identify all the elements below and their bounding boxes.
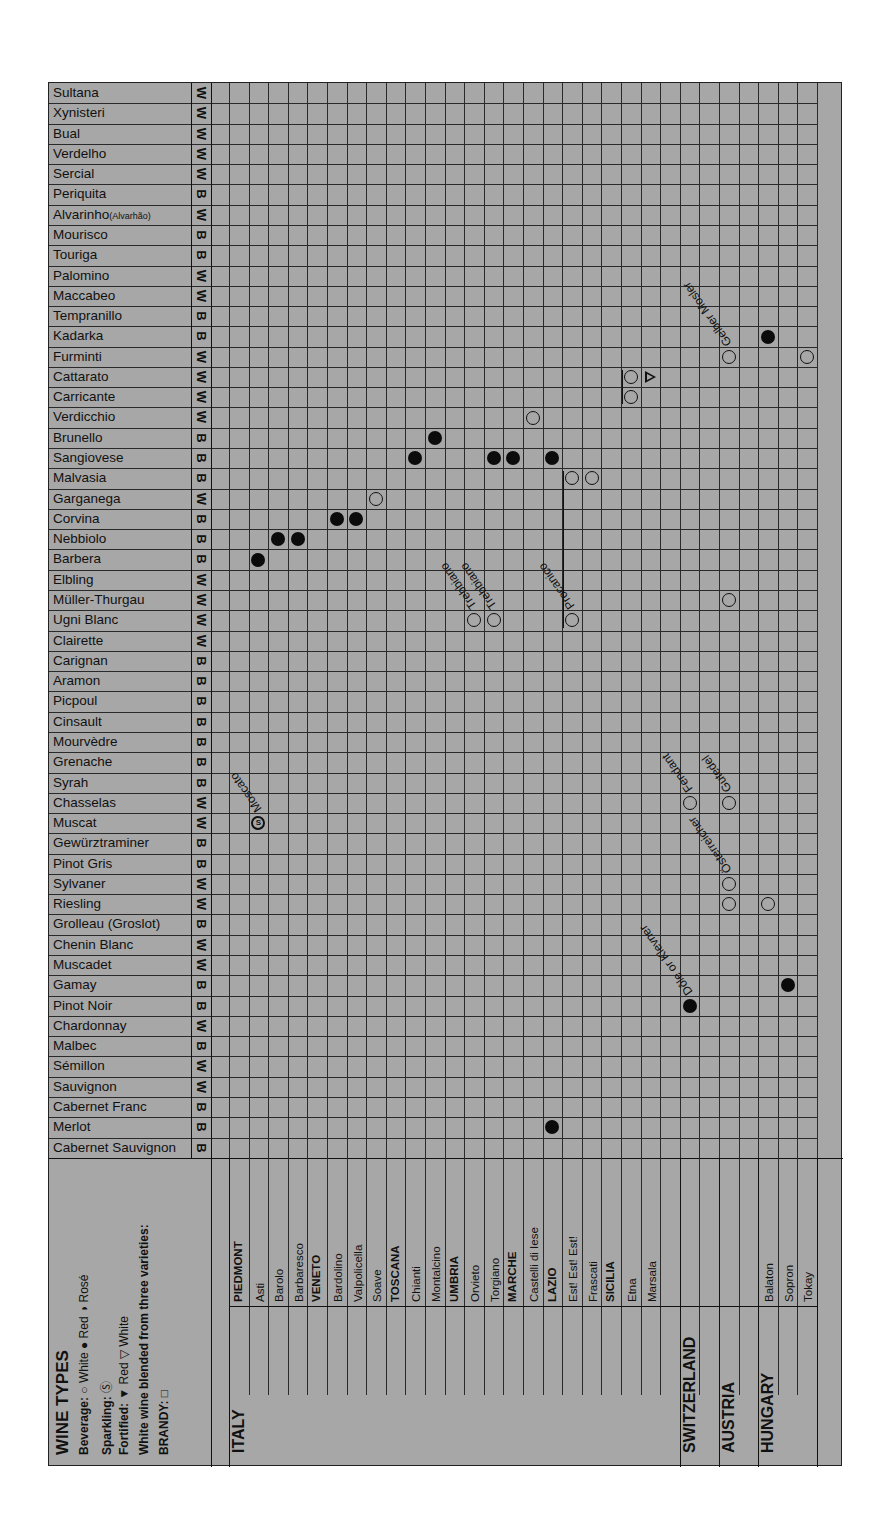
grape-label: Carignan	[53, 653, 108, 668]
grape-name: Müller-Thurgau	[53, 590, 145, 610]
grape-type-code: W	[191, 144, 211, 164]
grape-type-code: B	[191, 245, 211, 265]
grape-label: Pinot Gris	[53, 856, 112, 871]
row-divider	[49, 184, 817, 185]
grape-type-code: W	[191, 124, 211, 144]
grape-type-code: B	[191, 225, 211, 245]
grape-name: Kadarka	[53, 326, 103, 346]
grape-name: Maccabeo	[53, 286, 115, 306]
grape-name: Palomino	[53, 266, 109, 286]
grape-type-code: W	[191, 935, 211, 955]
fortified-label: Fortified:	[117, 1403, 131, 1455]
column-label-place: Est! Est! Est!	[564, 1236, 583, 1302]
grid-column-line	[445, 83, 446, 1395]
white-wine-icon	[722, 350, 736, 364]
grape-name: Sercial	[53, 164, 94, 184]
row-divider	[49, 164, 817, 165]
type-letter: B	[191, 311, 211, 320]
grape-name: Sangiovese	[53, 448, 124, 468]
grape-label: Verdicchio	[53, 409, 115, 424]
legend-title: WINE TYPES	[53, 1350, 73, 1455]
type-letter: W	[191, 269, 211, 281]
row-divider	[49, 225, 817, 226]
grape-type-code: W	[191, 266, 211, 286]
white-wine-icon	[761, 897, 775, 911]
legend-symbols: ○ White ● Red ◑ Rosé	[77, 1275, 91, 1397]
grid-column-line	[366, 83, 367, 1395]
column-label-place: Etna	[623, 1278, 642, 1302]
grape-type-code: W	[191, 610, 211, 630]
type-letter: B	[191, 1041, 211, 1050]
row-divider	[49, 448, 817, 449]
type-letter: W	[191, 87, 211, 99]
grape-label: Tempranillo	[53, 308, 122, 323]
grape-name: Chenin Blanc	[53, 935, 133, 955]
grape-label: Mourisco	[53, 227, 108, 242]
grape-label: Cabernet Sauvignon	[53, 1140, 176, 1155]
grape-type-code: B	[191, 996, 211, 1016]
type-letter: B	[191, 1001, 211, 1010]
column-label-region: UMBRIA	[445, 1256, 464, 1302]
grape-name: Garganega	[53, 489, 121, 509]
grape-name: Pinot Noir	[53, 996, 112, 1016]
column-label-place: Barbaresco	[290, 1243, 309, 1302]
sparkling-label: Sparkling:	[100, 1396, 114, 1455]
grape-type-code: B	[191, 651, 211, 671]
grape-label: Grenache	[53, 754, 112, 769]
type-letter: B	[191, 859, 211, 868]
grid-column-line	[425, 83, 426, 1395]
white-wine-icon	[565, 613, 579, 627]
grape-name: Sylvaner	[53, 874, 106, 894]
grape-label: Cattarato	[53, 369, 109, 384]
grape-alt-label: (Alvarhão)	[109, 211, 151, 221]
type-letter: B	[191, 981, 211, 990]
fortified-white-icon	[645, 371, 656, 383]
grape-name: Chardonnay	[53, 1016, 127, 1036]
row-divider	[49, 387, 817, 388]
type-letter: B	[191, 656, 211, 665]
type-letter: W	[191, 939, 211, 951]
synonym-annotation: Gutedel	[699, 752, 735, 794]
grape-type-code: W	[191, 1016, 211, 1036]
grape-label: Chenin Blanc	[53, 937, 133, 952]
grape-name: Gamay	[53, 975, 97, 995]
white-wine-icon	[722, 877, 736, 891]
grid-column-line	[601, 83, 602, 1395]
grape-label: Mourvèdre	[53, 734, 118, 749]
row-divider	[49, 955, 817, 956]
grape-name: Picpoul	[53, 691, 97, 711]
type-letter: B	[191, 514, 211, 523]
grape-type-code: W	[191, 874, 211, 894]
grape-name: Brunello	[53, 428, 103, 448]
white-wine-icon	[722, 593, 736, 607]
grape-type-code: W	[191, 631, 211, 651]
grape-type-code: B	[191, 854, 211, 874]
column-label-region: SICILIA	[601, 1261, 620, 1302]
red-wine-icon	[761, 330, 775, 344]
grape-type-code: B	[191, 914, 211, 934]
column-label-place: Valpolicella	[349, 1245, 368, 1302]
type-letter: B	[191, 697, 211, 706]
grape-name: Cinsault	[53, 712, 102, 732]
grape-label: Ugni Blanc	[53, 612, 118, 627]
beverage-label-row: Beverage: ○ White ● Red ◑ Rosé	[77, 1275, 91, 1455]
grape-name: Pinot Gris	[53, 854, 112, 874]
grape-label: Muscadet	[53, 957, 112, 972]
grape-label: Sémillon	[53, 1058, 105, 1073]
row-divider	[49, 590, 817, 591]
grid-column-line	[562, 83, 563, 1395]
grid-column-line	[582, 83, 583, 1395]
grape-label: Pinot Noir	[53, 998, 112, 1013]
grape-name: Periquita	[53, 184, 106, 204]
blend-bracket	[622, 370, 623, 405]
grape-label: Gewürztraminer	[53, 835, 149, 850]
row-divider	[49, 1016, 817, 1017]
legend-symbols: ▼ Red ▽ White	[117, 1316, 131, 1403]
grape-label: Malbec	[53, 1038, 97, 1053]
row-divider	[49, 367, 817, 368]
type-letter: W	[191, 594, 211, 606]
country-divider	[719, 1158, 720, 1467]
red-wine-icon	[330, 512, 344, 526]
grape-type-code: W	[191, 1077, 211, 1097]
grape-type-code: W	[191, 894, 211, 914]
